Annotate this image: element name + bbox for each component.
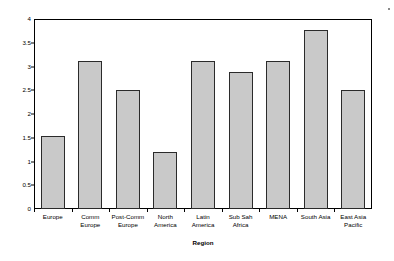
y-axis-tick-mark <box>31 114 34 115</box>
x-axis-category-label-line: South Asia <box>297 213 335 221</box>
x-axis-category-label-line: America <box>184 221 222 229</box>
y-axis-tick-labels: 00.511.522.533.54 <box>12 19 31 209</box>
x-axis-tick-mark <box>72 209 73 212</box>
bar <box>266 61 290 209</box>
x-axis-category-label: Post-CommEurope <box>109 213 147 229</box>
y-axis-tick-label: 4 <box>12 16 31 22</box>
y-axis-tick-label: 2 <box>12 111 31 117</box>
x-axis-category-label: CommEurope <box>72 213 110 229</box>
x-axis-category-label-line: Post-Comm <box>109 213 147 221</box>
x-axis-category-label-line: Europe <box>72 221 110 229</box>
bar <box>304 30 328 209</box>
y-axis-tick-mark <box>31 185 34 186</box>
x-axis-category-label: Sub SahAfrica <box>222 213 260 229</box>
bar-chart: Mean Torture Scale (Hathaway) 00.511.522… <box>0 0 394 261</box>
x-axis-category-label-line: Sub Sah <box>222 213 260 221</box>
x-axis-category-label-line: East Asia <box>334 213 372 221</box>
x-axis-tick-mark <box>109 209 110 212</box>
bar <box>116 90 140 209</box>
x-axis-category-label-line: Pacific <box>334 221 372 229</box>
x-axis-category-label-line: Europe <box>109 221 147 229</box>
x-axis-category-label: Europe <box>34 213 72 221</box>
y-axis-tick-mark <box>31 137 34 138</box>
y-axis-tick-label: 0.5 <box>12 182 31 188</box>
x-axis-tick-mark <box>222 209 223 212</box>
x-axis-category-label-line: Latin <box>184 213 222 221</box>
bar <box>78 61 102 209</box>
x-axis-category-label: South Asia <box>297 213 335 221</box>
corner-artifact <box>388 8 390 10</box>
x-axis-tick-mark <box>34 209 35 212</box>
x-axis-category-label: LatinAmerica <box>184 213 222 229</box>
x-axis-tick-mark <box>147 209 148 212</box>
y-axis-tick-label: 1.5 <box>12 135 31 141</box>
x-axis-category-label-line: North <box>147 213 185 221</box>
x-axis-category-label-line: America <box>147 221 185 229</box>
y-axis-tick-label: 0 <box>12 206 31 212</box>
y-axis-tick-mark <box>31 90 34 91</box>
x-axis-tick-mark <box>297 209 298 212</box>
bar <box>341 90 365 209</box>
bars-layer <box>34 19 372 209</box>
x-axis-category-label: MENA <box>259 213 297 221</box>
bar <box>229 72 253 209</box>
x-axis-category-label-line: MENA <box>259 213 297 221</box>
y-axis-tick-label: 3 <box>12 63 31 69</box>
y-axis-tick-mark <box>31 66 34 67</box>
y-axis-tick-mark <box>31 42 34 43</box>
x-axis-category-label-line: Europe <box>34 213 72 221</box>
x-axis-category-label: East AsiaPacific <box>334 213 372 229</box>
bar <box>153 152 177 209</box>
x-axis-title: Region <box>34 239 372 246</box>
y-axis-tick-label: 2.5 <box>12 87 31 93</box>
bar <box>41 136 65 209</box>
y-axis-tick-label: 1 <box>12 158 31 164</box>
x-axis-tick-labels: EuropeCommEuropePost-CommEuropeNorthAmer… <box>34 213 372 241</box>
bar <box>191 61 215 209</box>
x-axis-tick-mark <box>259 209 260 212</box>
x-axis-category-label: NorthAmerica <box>147 213 185 229</box>
x-axis-category-label-line: Africa <box>222 221 260 229</box>
y-axis-tick-label: 3.5 <box>12 40 31 46</box>
x-axis-tick-mark <box>184 209 185 212</box>
x-axis-tick-mark <box>334 209 335 212</box>
y-axis-tick-mark <box>31 161 34 162</box>
x-axis-category-label-line: Comm <box>72 213 110 221</box>
